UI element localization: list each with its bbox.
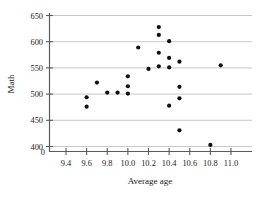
data-point xyxy=(167,39,171,43)
data-point xyxy=(157,64,161,68)
scatter-plot-figure: 400450500550600650 9.49.69.810.010.210.4… xyxy=(0,0,261,200)
y-axis-title: Math xyxy=(6,74,16,93)
y-tick-label: 550 xyxy=(30,64,43,73)
data-point xyxy=(157,33,161,37)
x-tick-label: 10.0 xyxy=(121,159,136,168)
data-point xyxy=(167,104,171,108)
data-point xyxy=(95,80,99,84)
data-point xyxy=(177,96,181,100)
data-point xyxy=(126,74,130,78)
y-axis-break-label: 0 xyxy=(41,148,45,157)
x-tick-label: 10.2 xyxy=(141,159,156,168)
data-point xyxy=(105,90,109,94)
data-point xyxy=(85,105,89,109)
data-point xyxy=(136,45,140,49)
data-point xyxy=(115,90,119,94)
x-tick-label: 10.6 xyxy=(182,159,197,168)
axes-group xyxy=(50,13,253,152)
y-tick-label: 600 xyxy=(30,38,43,47)
data-point xyxy=(208,143,212,147)
x-tick-label: 11.0 xyxy=(224,159,238,168)
data-point xyxy=(177,128,181,132)
data-point xyxy=(146,67,150,71)
scatter-plot-canvas: 400450500550600650 9.49.69.810.010.210.4… xyxy=(0,0,261,200)
x-tick-label: 9.6 xyxy=(81,159,91,168)
gridlines-group xyxy=(50,16,252,147)
x-axis-title: Average age xyxy=(128,176,173,186)
data-point xyxy=(126,92,130,96)
y-tick-label: 650 xyxy=(30,12,43,21)
data-point xyxy=(157,25,161,29)
data-point xyxy=(167,65,171,69)
data-point xyxy=(219,63,223,67)
data-point xyxy=(85,95,89,99)
data-point xyxy=(167,56,171,60)
data-point xyxy=(126,84,130,88)
y-tick-label: 450 xyxy=(30,116,43,125)
x-tick-label-group: 9.49.69.810.010.210.410.610.811.0 xyxy=(61,159,238,168)
y-tick-label-group: 400450500550600650 xyxy=(30,12,43,152)
data-point xyxy=(177,85,181,89)
data-point xyxy=(177,60,181,64)
x-tick-label: 9.4 xyxy=(61,159,72,168)
y-tick-label: 500 xyxy=(30,90,43,99)
data-points-group xyxy=(85,25,223,147)
x-tick-label: 10.8 xyxy=(203,159,218,168)
x-tick-label: 10.4 xyxy=(162,159,177,168)
x-tick-label: 9.8 xyxy=(102,159,112,168)
data-point xyxy=(157,51,161,55)
